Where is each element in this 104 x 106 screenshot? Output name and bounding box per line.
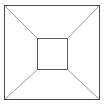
face-back (38, 39, 68, 70)
perspective-box-figure (0, 0, 104, 106)
perspective-box-svg (0, 0, 104, 106)
